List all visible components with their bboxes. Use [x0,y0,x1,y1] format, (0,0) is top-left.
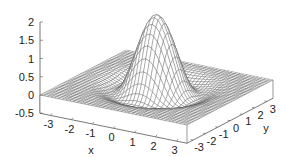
x-tick-label: -1 [86,127,96,139]
z-axis-ticks: -0.500.511.52 [15,16,43,119]
y-tick-label: 2 [258,109,264,121]
x-tick-label: -2 [65,123,75,135]
y-tick-label: 0 [233,122,239,134]
x-tick-label: 3 [171,144,177,156]
x-tick-label: 2 [150,140,156,152]
y-tick-label: -2 [207,135,217,147]
z-tick-label: 1.5 [19,34,34,46]
z-tick-label: 0 [28,89,34,101]
z-tick-label: -0.5 [15,107,34,119]
y-tick-label: -1 [219,128,229,140]
x-tick-label: 1 [129,136,135,148]
x-axis-label: x [88,144,94,156]
surface-plot: -0.500.511.52 -3-2-10123 -3-2-10123 x y [0,0,286,157]
x-tick-label: -3 [44,118,54,130]
z-tick-label: 0.5 [19,71,34,83]
y-axis-label: y [263,122,269,134]
y-tick-label: -3 [194,141,204,153]
y-tick-label: 3 [270,103,276,115]
y-tick-label: 1 [245,115,251,127]
z-tick-label: 2 [28,16,34,28]
x-tick-label: 0 [108,131,114,143]
z-tick-label: 1 [28,53,34,65]
